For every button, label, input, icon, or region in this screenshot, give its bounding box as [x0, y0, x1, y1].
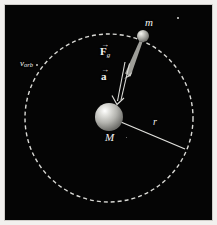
- radius-label: r: [153, 117, 157, 127]
- acceleration-vector-label: →a: [101, 68, 109, 82]
- velocity-marker-dot: [36, 64, 38, 66]
- force-vector-overbar: →: [100, 43, 110, 47]
- acceleration-vector-overbar: →: [101, 68, 109, 72]
- force-vector-label: →Fg: [100, 43, 110, 59]
- orbiting-mass-label: m: [145, 17, 153, 28]
- acceleration-vector-arrow: [112, 62, 130, 105]
- orbit-diagram-figure: m M r vorb →Fg →a: [0, 0, 217, 225]
- force-subscript: g: [107, 51, 111, 59]
- orbital-velocity-subscript: orb: [24, 61, 33, 68]
- central-mass-sphere: [95, 103, 123, 131]
- central-mass-label: M: [105, 132, 114, 143]
- diagram-frame: m M r vorb →Fg →a: [4, 4, 213, 221]
- diagram-scene: m M r vorb →Fg →a: [5, 5, 212, 220]
- diagram-svg: [5, 5, 212, 220]
- orbiting-mass-sphere: [137, 30, 149, 42]
- orbital-velocity-label: vorb: [20, 59, 33, 69]
- star-speck: [177, 17, 179, 19]
